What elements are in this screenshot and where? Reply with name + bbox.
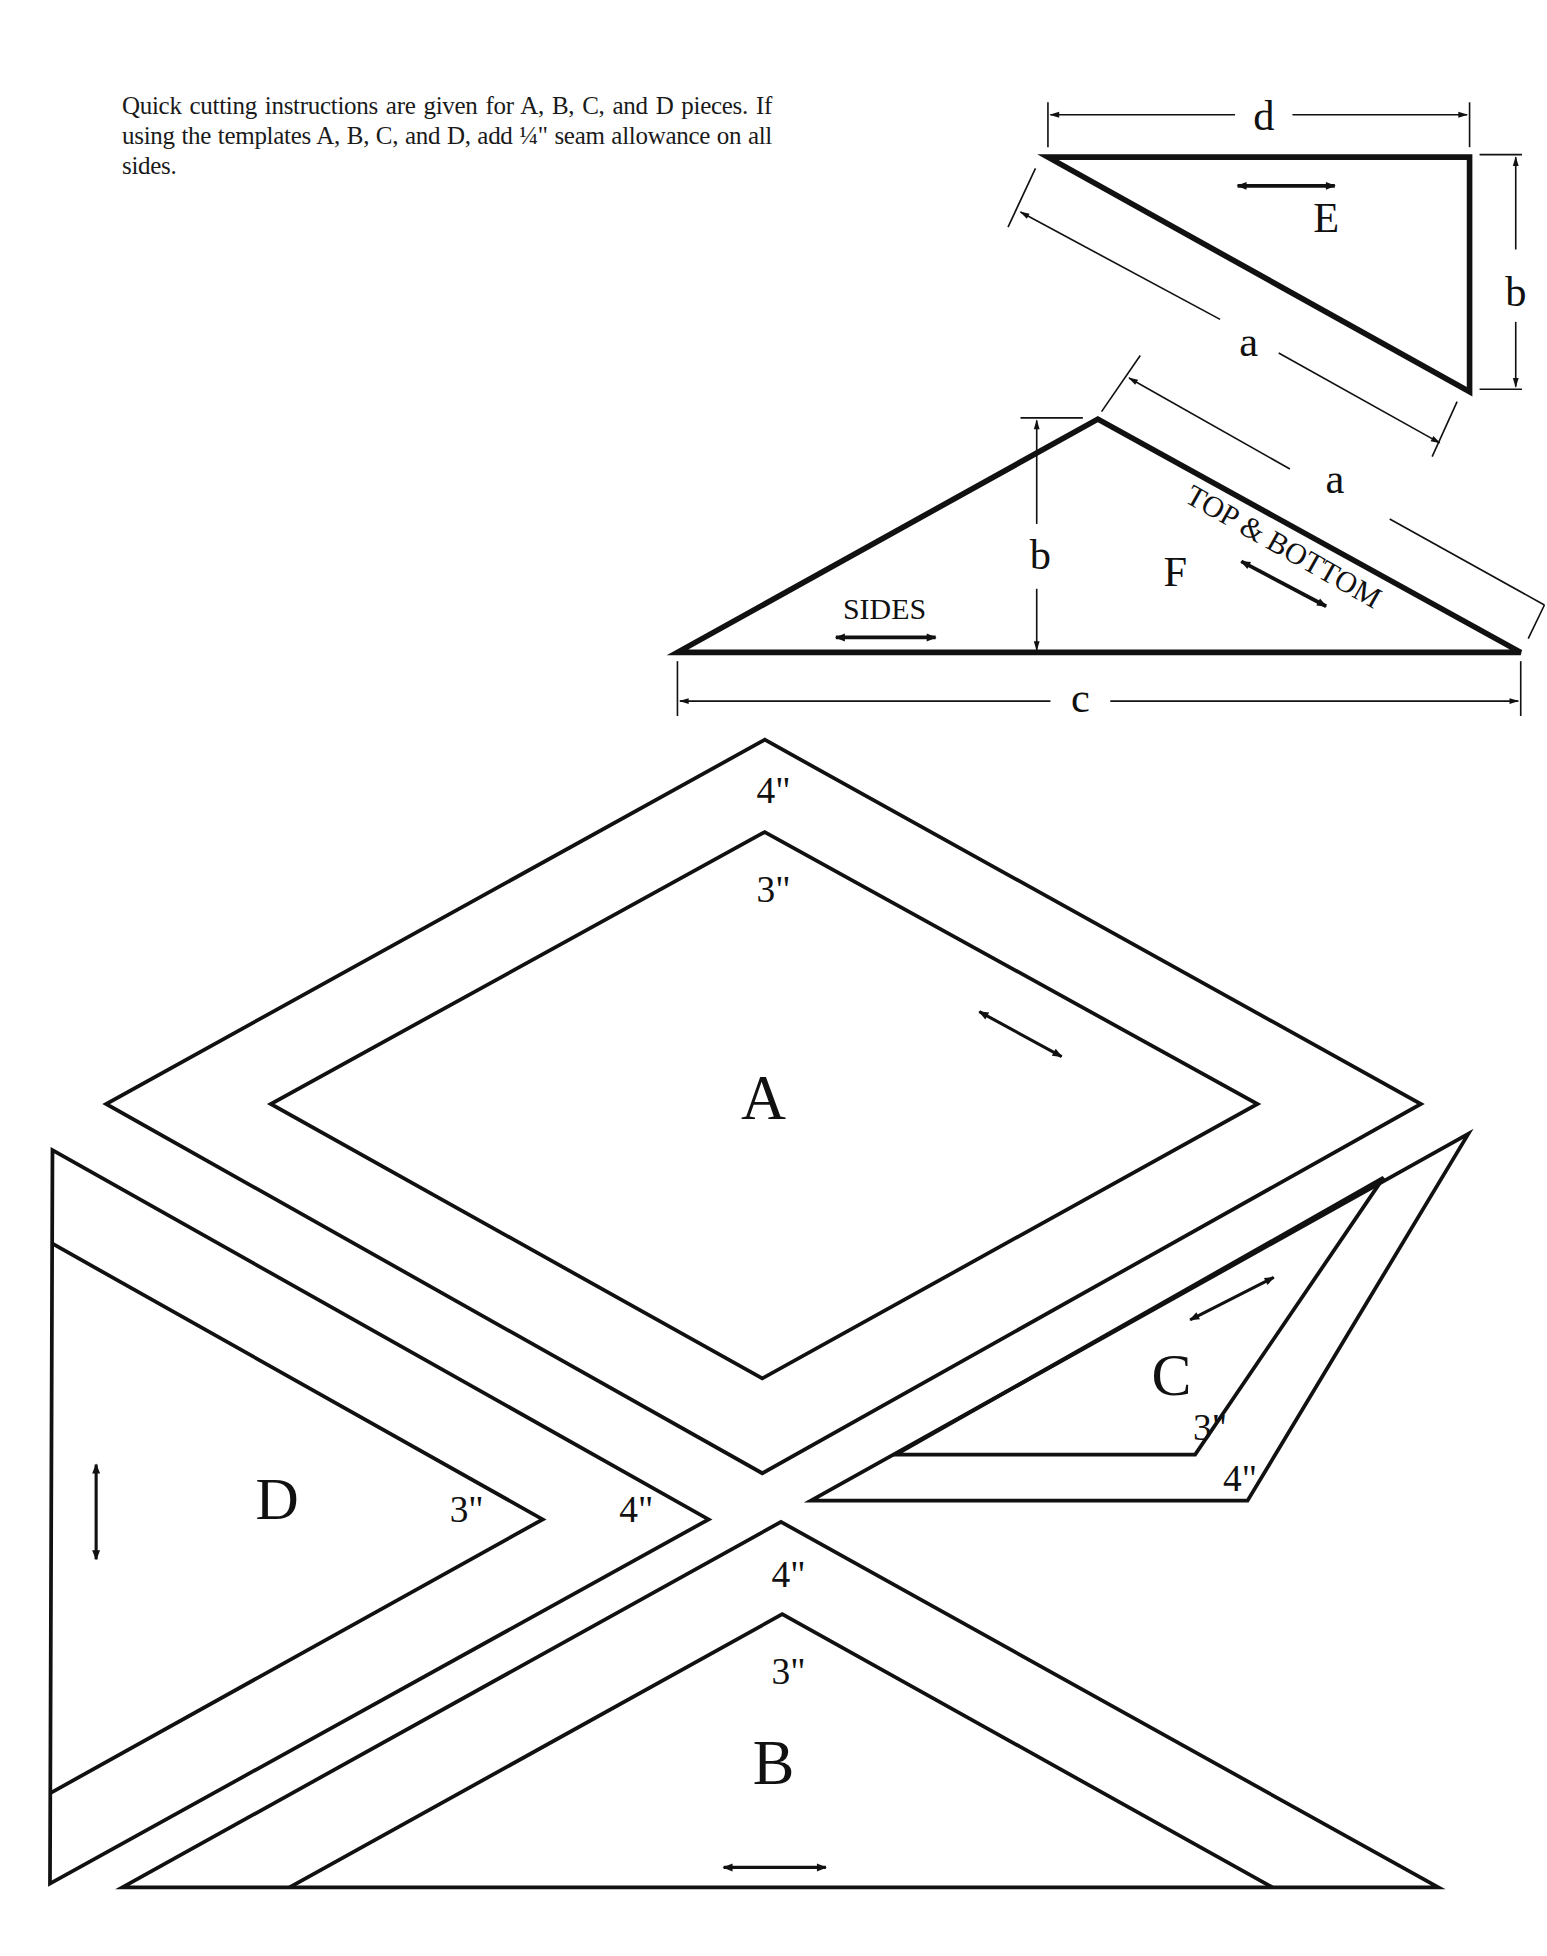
dim-a-label-f: a: [1325, 455, 1344, 502]
piece-d-outer-outline: [50, 1150, 709, 1884]
piece-b: 4" 3" B: [122, 1522, 1438, 1888]
piece-f-label: F: [1163, 548, 1187, 595]
grain-arrow-icon: [979, 1012, 1061, 1057]
piece-a-outer-size: 4": [757, 770, 791, 811]
piece-f-outline: [677, 419, 1520, 652]
piece-e: d b a E: [1008, 92, 1526, 457]
piece-a-label: A: [741, 1063, 786, 1132]
piece-c-inner-size: 3": [1193, 1407, 1227, 1448]
piece-d: D 3" 4": [50, 1150, 709, 1884]
piece-c-outer-size: 4": [1223, 1458, 1257, 1499]
dim-c-label: c: [1071, 674, 1090, 721]
piece-e-label: E: [1313, 194, 1339, 241]
piece-a-inner-size: 3": [757, 869, 791, 910]
dim-b-label-f: b: [1030, 531, 1051, 578]
dim-b-label-e: b: [1505, 268, 1526, 315]
grain-sides-label: SIDES: [843, 592, 926, 625]
piece-c: C 3" 4": [811, 1134, 1468, 1501]
piece-d-inner-size: 3": [450, 1489, 484, 1530]
piece-b-label: B: [753, 1728, 795, 1797]
piece-c-inner-outline: [896, 1178, 1384, 1455]
piece-b-inner-size: 3": [771, 1651, 805, 1692]
piece-e-outline: [1048, 157, 1470, 392]
quilt-template-diagram: d b a E b c a SIDES: [0, 0, 1547, 1956]
piece-f: b c a SIDES TOP & BOTTOM F: [677, 356, 1544, 722]
piece-d-label: D: [255, 1466, 298, 1532]
piece-b-outer-size: 4": [771, 1554, 805, 1595]
piece-d-outer-size: 4": [619, 1489, 653, 1530]
piece-a: 4" 3" A: [106, 740, 1421, 1474]
dim-d-label: d: [1253, 92, 1274, 139]
grain-top-bottom-label: TOP & BOTTOM: [1180, 478, 1387, 615]
dim-a-label-e: a: [1239, 318, 1258, 365]
piece-c-label: C: [1151, 1342, 1191, 1408]
